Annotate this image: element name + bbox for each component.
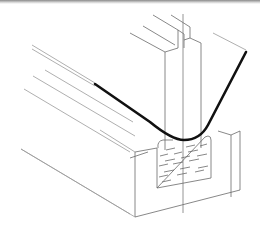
bent-sheet <box>95 52 246 140</box>
sheet-right-edge <box>213 33 246 50</box>
bending-die-drawing <box>0 0 260 231</box>
pad-hatching <box>159 144 208 182</box>
die-block <box>21 130 240 217</box>
punch-plate <box>130 15 201 150</box>
left-receding-lines <box>21 45 135 214</box>
